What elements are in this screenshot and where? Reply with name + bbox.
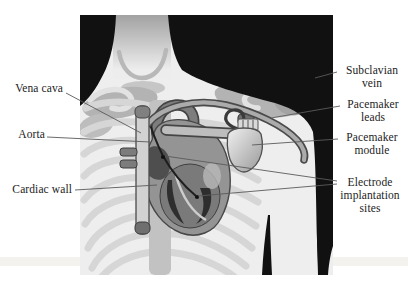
- label-subclavian-vein: Subclavian vein: [336, 64, 408, 90]
- vena-cava-top-cap: [135, 106, 150, 118]
- label-cardiac-wall: Cardiac wall: [0, 183, 72, 196]
- vessel-stub-upper: [120, 148, 137, 156]
- vena-cava-tube: [136, 106, 149, 234]
- label-pacemaker-leads: Pacemaker leads: [338, 98, 408, 124]
- vena-cava-bottom-cap: [135, 222, 150, 234]
- vessel-stub-lower: [120, 160, 137, 168]
- label-electrode-implantation-sites: Electrode implantation sites: [332, 176, 408, 215]
- label-aorta: Aorta: [0, 128, 45, 141]
- label-vena-cava: Vena cava: [0, 82, 63, 95]
- heart-highlight: [203, 163, 221, 189]
- neck: [113, 15, 171, 79]
- electrode-site-atrial: [161, 155, 165, 159]
- label-pacemaker-module: Pacemaker module: [336, 131, 408, 157]
- pacemaker-diagram-page: Vena cava Aorta Cardiac wall Subclavian …: [0, 0, 408, 289]
